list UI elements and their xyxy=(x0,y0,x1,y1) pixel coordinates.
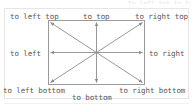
label-to-left: to left xyxy=(10,49,41,58)
label-to-right: to right xyxy=(149,49,184,58)
label-to-bottom: to bottom xyxy=(72,93,112,102)
panel-bottom-rule xyxy=(4,103,189,104)
label-to-top: to top xyxy=(83,12,110,21)
label-to-left-top: to left top xyxy=(10,12,59,21)
clipped-header-text: to left top to top xyxy=(128,0,190,4)
label-to-right-bottom: to right bottom xyxy=(119,86,185,95)
label-to-right-top: to right top xyxy=(135,12,188,21)
direction-box xyxy=(48,20,145,85)
label-to-left-bottom: to left bottom xyxy=(3,86,65,95)
